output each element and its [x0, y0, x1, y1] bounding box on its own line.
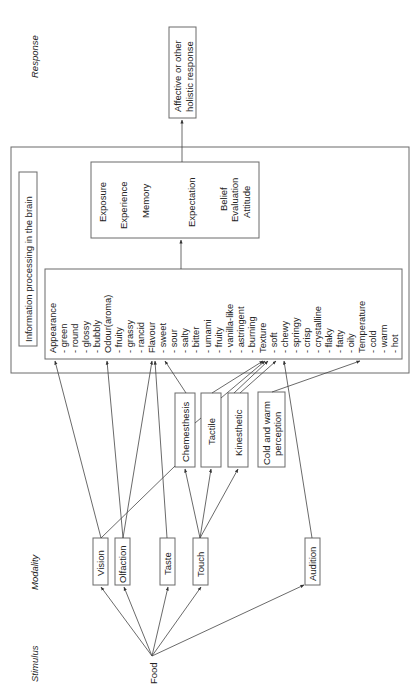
cog-exposure: Exposure	[97, 182, 108, 222]
cog-evaluation: Evaluation	[229, 178, 240, 222]
attribute-descriptor: - chewy	[280, 321, 290, 353]
box-chemesthesis: Chemesthesis	[175, 393, 195, 467]
attribute-descriptor: - astringent	[236, 306, 246, 353]
cog-attitude: Attitude	[241, 186, 252, 218]
svg-text:Audition: Audition	[307, 547, 318, 581]
edges-touch-to-submodalities	[185, 469, 238, 538]
attributes-box: Appearance- green- round- glossy- bubbly…	[45, 269, 402, 359]
attribute-descriptor: - fatty	[335, 329, 345, 353]
attribute-descriptor: - oily	[346, 333, 356, 353]
svg-text:Vision: Vision	[95, 550, 106, 576]
attribute-descriptor: - sour	[169, 329, 179, 353]
attribute-descriptor: - burning	[247, 316, 257, 353]
svg-text:Cold and warm: Cold and warm	[261, 401, 272, 465]
attribute-descriptor: - warm	[379, 324, 389, 353]
stimulus-food: Food	[148, 662, 159, 684]
attribute-descriptor: - bubbly	[92, 320, 102, 353]
attribute-descriptor: - flaky	[324, 328, 334, 353]
attribute-descriptor: - fruity	[114, 327, 124, 353]
stage-label-stimulus: Stimulus	[29, 645, 40, 682]
response-box: Affective or other holistic response	[169, 27, 196, 118]
cog-belief: Belief	[218, 187, 229, 211]
attribute-descriptor: - springy	[291, 317, 301, 353]
box-tactile: Tactile	[201, 393, 221, 467]
attribute-descriptor: - rancid	[136, 322, 146, 353]
attribute-descriptor: - soft	[269, 332, 279, 353]
brain-title: Information processing in the brain	[23, 196, 34, 342]
cognition-box: Exposure Experience Memory Expectation B…	[91, 162, 259, 238]
attribute-descriptor: - fruity	[214, 327, 224, 353]
attribute-descriptor: - glossy	[81, 321, 91, 353]
stage-label-modality: Modality	[29, 553, 40, 590]
svg-text:Touch: Touch	[195, 552, 206, 577]
svg-text:perception: perception	[272, 412, 283, 456]
box-cold-warm-perception: Cold and warm perception	[258, 392, 285, 467]
svg-text:Olfaction: Olfaction	[117, 546, 128, 584]
attribute-descriptor: - round	[70, 324, 80, 353]
stage-label-response: Response	[29, 35, 40, 78]
box-audition: Audition	[305, 538, 320, 585]
sensory-perception-diagram: Response Modality Stimulus Affective or …	[0, 0, 420, 684]
attribute-descriptor: - bitter	[191, 327, 201, 353]
svg-text:Chemesthesis: Chemesthesis	[180, 402, 191, 462]
svg-text:Taste: Taste	[162, 552, 173, 575]
attribute-descriptor: - cold	[368, 330, 378, 353]
attribute-descriptor: - green	[59, 324, 69, 353]
cog-experience: Experience	[118, 181, 129, 229]
attribute-category: Flavour	[147, 322, 157, 353]
response-line2: holistic response	[184, 41, 195, 112]
attribute-descriptor: - sweet	[158, 323, 168, 353]
attribute-descriptor: - umami	[203, 319, 213, 353]
edges-food-to-modalities	[101, 585, 304, 656]
attribute-descriptor: - crisp	[302, 328, 312, 353]
attribute-category: Appearance	[48, 303, 58, 353]
svg-text:Kinesthetic: Kinesthetic	[233, 409, 244, 456]
response-line1: Affective or other	[172, 40, 183, 112]
attribute-descriptor: - grassy	[125, 320, 135, 353]
attribute-category: Texture	[258, 323, 268, 354]
attribute-category: Temperature	[357, 301, 367, 353]
box-taste: Taste	[160, 538, 175, 585]
svg-text:Tactile: Tactile	[206, 418, 217, 445]
box-vision: Vision	[93, 538, 108, 585]
box-olfaction: Olfaction	[115, 538, 130, 585]
brain-title-box: Information processing in the brain	[19, 172, 37, 346]
box-kinesthetic: Kinesthetic	[228, 393, 248, 467]
attribute-category: Odour(aroma)	[103, 295, 113, 353]
cog-expectation: Expectation	[186, 177, 197, 227]
attribute-descriptor: - hot	[390, 334, 400, 353]
attribute-descriptor: - crystalline	[313, 306, 323, 353]
cog-memory: Memory	[140, 183, 151, 218]
box-touch: Touch	[193, 538, 208, 585]
attribute-descriptor: - vanilla-like	[225, 304, 235, 353]
attribute-descriptor: - salty	[180, 328, 190, 353]
